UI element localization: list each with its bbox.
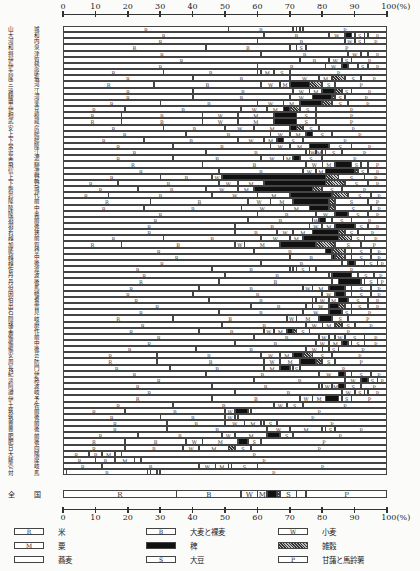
bar-segment-soba [296,490,306,498]
bar-segment-s: S [280,490,297,498]
legend-label: 大麦と裸麦 [190,526,225,537]
label-char-1: 丹 [8,272,14,278]
label-char-2: 房 [34,125,40,131]
label-char-2: 中 [34,254,40,260]
bar-segment-b: B [176,490,241,498]
label-char-1: 武 [8,118,14,124]
bar-segment-m: M [257,490,267,498]
label-char-2: 濃 [34,168,40,174]
label-char-2: 河 [34,81,40,87]
label-char-1: 因 [8,291,14,297]
label-char-1: 伊 [8,57,14,63]
label-char-2: 波 [34,272,40,278]
label-char-2: 賀 [34,242,40,248]
label-char-1: 石 [8,309,14,315]
bar-segment-p: P [160,469,387,475]
label-char-1: 和 [8,44,14,50]
label-char-1: 播 [8,322,14,328]
label-char-2: 濃 [34,155,40,161]
label-char-2: 野 [34,180,40,186]
axis-tick [95,11,97,17]
label-char-1: 上 [8,174,14,180]
legend-label: 雑穀 [322,540,336,551]
legend-item: B大麦と裸麦 [146,526,225,537]
label-char-2: 騨 [34,162,40,168]
axis-tick-label: 80 [317,513,327,522]
label-char-1: 紀 [8,371,14,377]
label-char-2: 後 [34,439,40,445]
legend-label: 大豆 [190,554,204,565]
axis-tick [289,11,291,17]
legend-item: M粟 [14,540,65,551]
label-char-2: 斐 [34,100,40,106]
label-char-1: 筑 [8,408,14,414]
label-char-2: 芸 [34,352,40,358]
label-char-1: 信 [8,168,14,174]
label-char-2: 賀 [34,57,40,63]
label-char-1: 安 [8,125,14,131]
legend-label: 蕎麦 [58,554,72,565]
label-char-2: 前 [34,235,40,241]
legend-item: R米 [14,526,65,537]
label-char-2: 岐 [34,463,40,469]
legend-swatch: S [146,556,176,563]
label-char-1: 尾 [8,75,14,81]
axis-tick [257,11,259,17]
label-char-2: 防 [34,359,40,365]
label-char-2: 磨 [34,322,40,328]
label-char-2: 野 [34,174,40,180]
legend-swatch [278,542,308,549]
legend-swatch: M [14,542,44,549]
label-char-1: 但 [8,285,14,291]
legend-item: W小麦 [278,526,336,537]
label-char-1: 壱 [8,463,14,469]
stacked-bar: BP [63,469,387,475]
label-char-1: 遠 [8,88,14,94]
legend-item: 雑穀 [278,540,336,551]
label-char-1: 伊 [8,396,14,402]
label-char-1: 出 [8,303,14,309]
label-char-1: 三 [8,81,14,87]
bar-segment-p: P [306,490,387,498]
label-char-1: 丹 [8,279,14,285]
label-char-2: 岐 [34,389,40,395]
label-char-1: 能 [8,248,14,254]
label-char-2: 前 [34,198,40,204]
label-char-1: 土 [8,402,14,408]
label-char-2: 耆 [34,297,40,303]
axis-tick-label: 20 [123,513,133,522]
label-char-1: 佐 [8,266,14,272]
label-char-1: 下 [8,137,14,143]
axis-tick-label: 70 [285,2,295,11]
label-char-2: 門 [34,365,40,371]
label-char-1: 上 [8,131,14,137]
legend: R米B大麦と裸麦W小麦M粟稗雑穀蕎麦S大豆P甘藷と馬鈴薯 [0,526,420,571]
label-char-2: 佐 [34,402,40,408]
legend-swatch [14,556,44,563]
label-char-2: 蔵 [34,118,40,124]
axis-tick-label: 100(%) [381,2,410,11]
national-bar: RBWMSP [63,490,387,498]
legend-label: 米 [58,526,65,537]
bar-segment-r: R [63,490,177,498]
label-char-1: 陸 [8,211,14,217]
label-char-1: 長 [8,365,14,371]
axis-tick-label: 80 [317,2,327,11]
legend-item: 蕎麦 [14,554,72,565]
axis-tick-label: 30 [155,2,165,11]
axis-tick-label: 90 [350,513,360,522]
label-char-1: 豊 [8,426,14,432]
label-char-2: 雲 [34,303,40,309]
axis-tick-label: 40 [188,2,198,11]
axis-tick-label: 90 [350,2,360,11]
axis-tick [62,11,64,17]
label-char-2: 前 [34,408,40,414]
axis-tick [224,11,226,17]
axis-tick [321,11,323,17]
label-char-1: 陸 [8,198,14,204]
legend-label: 粟 [58,540,65,551]
label-char-2: 作 [34,328,40,334]
bar-row: BP [63,469,387,475]
legend-label: 甘藷と馬鈴薯 [322,554,364,565]
legend-item: 稗 [146,540,197,551]
